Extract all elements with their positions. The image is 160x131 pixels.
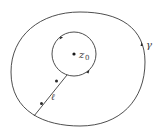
label-z-subscript: 0 bbox=[85, 54, 89, 62]
center-point-z0 bbox=[72, 52, 75, 55]
label-z: z bbox=[78, 49, 85, 60]
label-ell: ℓ bbox=[51, 92, 55, 102]
ell-arrow-upper-icon bbox=[55, 80, 58, 83]
contour-diagram: z 0 γ ℓ bbox=[0, 0, 160, 131]
ell-arrow-lower-icon bbox=[40, 102, 43, 105]
label-gamma: γ bbox=[146, 39, 152, 50]
outer-contour-gamma bbox=[11, 12, 145, 126]
